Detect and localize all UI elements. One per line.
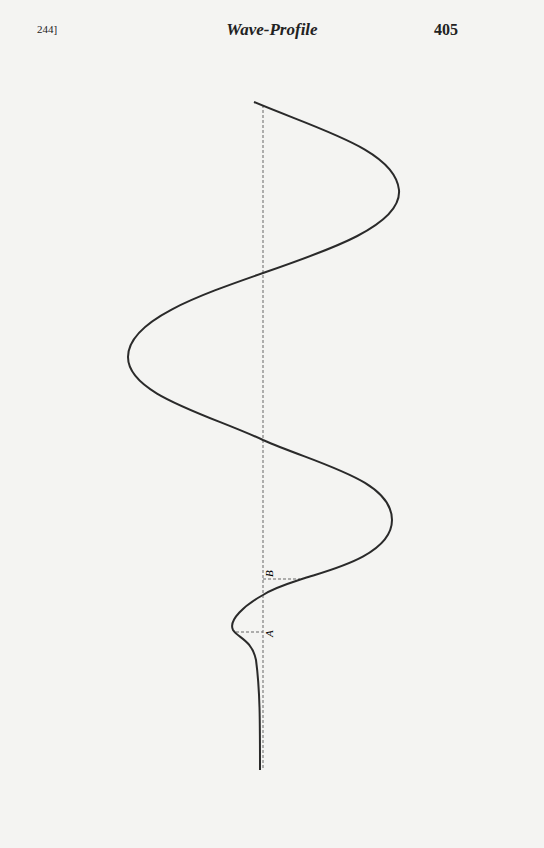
label-a: A bbox=[263, 630, 275, 638]
label-b: B bbox=[263, 570, 275, 577]
wave-profile-figure: B A bbox=[0, 0, 544, 848]
wave-curve bbox=[128, 102, 399, 770]
